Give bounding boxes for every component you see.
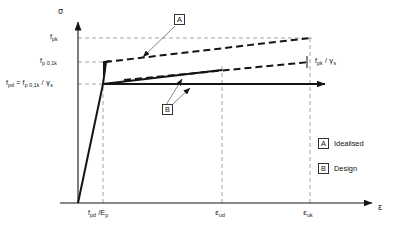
callout-a-leader-line	[143, 26, 175, 57]
right-gamma-sub: s	[334, 60, 337, 66]
curve-b-inclined	[103, 70, 222, 84]
elastic-line	[78, 84, 103, 203]
x-tick-label-eps-ud: εud	[215, 209, 225, 216]
y-tick-label-fpk: fpk	[50, 33, 58, 40]
y-tick-fpd-eq: = f	[14, 78, 25, 87]
y-tick-fp01k-sub: p 0,1k	[42, 60, 57, 66]
legend-item-idealised: A Idealised	[318, 138, 364, 149]
x-eps-uk-sub: uk	[307, 212, 313, 218]
y-tick-fpd-sub2: p 0,1k	[25, 82, 40, 88]
y-tick-fpd-gamma-sub: s	[50, 82, 53, 88]
callout-tag-a: A	[174, 14, 185, 25]
reference-gridlines	[78, 36, 312, 203]
right-fpk-sub: pk	[317, 60, 323, 66]
y-tick-fpk-sub: pk	[52, 36, 58, 42]
x-tick-label-eps-uk: εuk	[303, 209, 313, 216]
callout-b-leader-to-inclined	[166, 79, 182, 105]
legend-item-design: B Design	[318, 163, 357, 174]
x-fpdep-sub: pd	[90, 212, 96, 218]
legend-tag-b: B	[318, 163, 329, 174]
y-tick-label-fp01k: fp 0,1k	[40, 57, 57, 64]
callout-tag-b: B	[162, 104, 173, 115]
x-axis-label: ε	[378, 204, 382, 212]
right-gamma: γ	[329, 56, 333, 65]
x-fpdep-esub: p	[105, 212, 108, 218]
callout-b-leaders	[166, 79, 190, 105]
curve-a-upper-branch	[105, 38, 310, 62]
right-label-fpk-gamma-s: fpk / γs	[315, 57, 336, 64]
design-inclined-line	[103, 70, 222, 84]
legend-tag-a: A	[318, 138, 329, 149]
curve-a-idealised	[105, 38, 310, 62]
x-tick-label-fpd-over-ep: fpd /Ep	[88, 209, 108, 216]
callout-a-leader	[143, 26, 175, 57]
y-axis-label: σ	[58, 8, 63, 16]
y-tick-fpd-sub: pd	[8, 82, 14, 88]
legend-label-idealised: Idealised	[334, 139, 364, 148]
curve-elastic-branch	[78, 62, 106, 203]
stress-strain-figure: σ ε fpk fp 0,1k fpd = fp 0,1k / γs fpk /…	[0, 0, 403, 229]
y-tick-label-fpd: fpd = fp 0,1k / γs	[6, 79, 53, 86]
legend-label-design: Design	[334, 164, 357, 173]
x-eps-ud-sub: ud	[219, 212, 225, 218]
figure-canvas	[0, 0, 403, 229]
x-fpdep-e: /E	[96, 208, 105, 217]
